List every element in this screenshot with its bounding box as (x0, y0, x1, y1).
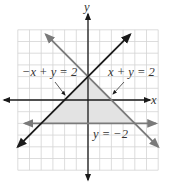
coordinate-plane: x y −x + y = 2 x + y = 2 y = −2 (0, 0, 180, 185)
graph-figure: x y −x + y = 2 x + y = 2 y = −2 (0, 0, 180, 185)
label-x-plus-y: x + y = 2 (107, 65, 155, 79)
label-neg-x-plus-y: −x + y = 2 (22, 65, 77, 79)
label-y-eq-neg2: y = −2 (91, 127, 128, 141)
x-axis-label: x (150, 93, 157, 107)
y-axis-label: y (82, 0, 90, 14)
